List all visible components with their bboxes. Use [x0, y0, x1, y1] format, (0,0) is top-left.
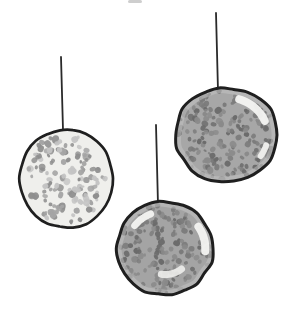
illustration-canvas: [0, 0, 286, 314]
ornament-left-light-ball: [19, 57, 113, 228]
ornament-string: [216, 13, 218, 91]
ornament-string: [61, 57, 63, 130]
illustration-page: [0, 0, 286, 314]
ornament-top-right-gray-ball: [175, 13, 277, 183]
top-edge-artifact: [128, 0, 142, 3]
ornament-string: [156, 125, 158, 205]
